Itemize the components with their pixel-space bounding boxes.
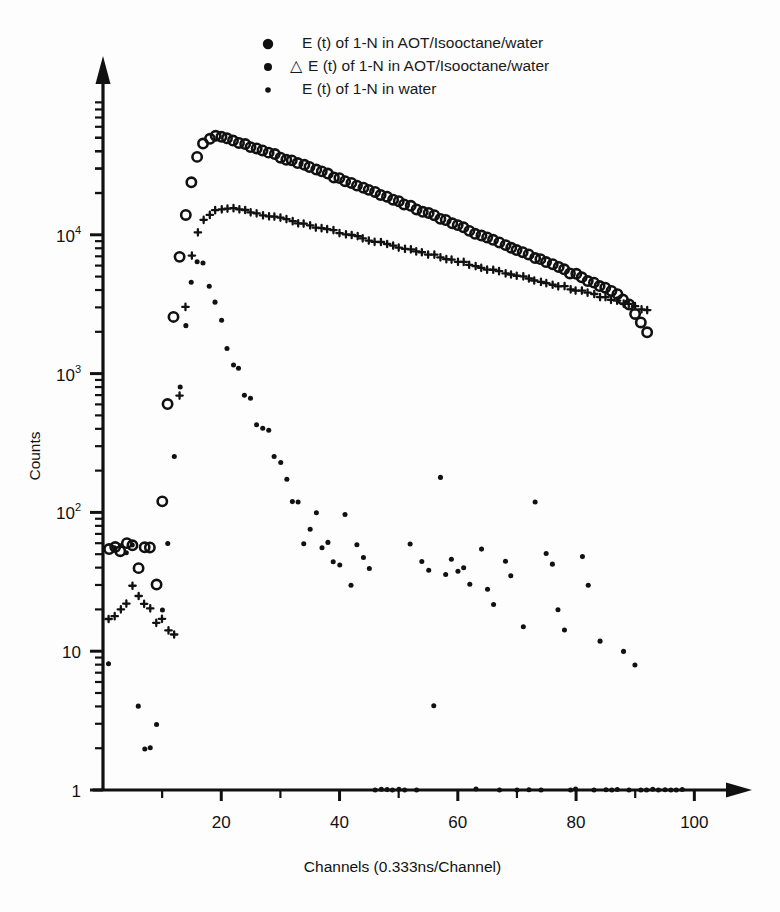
legend-item-1: E (t) of 1-N in AOT/Isooctane/water — [263, 34, 543, 51]
data-point — [112, 545, 117, 550]
figure-container: 11010210310420406080100Channels (0.333ns… — [0, 0, 780, 912]
data-point — [479, 547, 484, 552]
y-tick-label: 10 — [62, 643, 81, 662]
data-point — [550, 562, 555, 567]
plot-background — [0, 0, 780, 912]
data-point — [337, 562, 342, 567]
data-point — [533, 499, 538, 504]
data-point — [195, 259, 200, 264]
legend-marker — [265, 87, 271, 93]
data-point — [539, 787, 544, 792]
data-point — [248, 396, 253, 401]
data-point — [301, 541, 306, 546]
x-tick-label: 80 — [567, 813, 586, 832]
data-point — [212, 300, 217, 305]
data-point — [473, 787, 478, 792]
data-point — [331, 559, 336, 564]
data-point — [189, 280, 194, 285]
data-point — [443, 572, 448, 577]
data-point — [361, 555, 366, 560]
data-point — [343, 512, 348, 517]
data-point — [148, 745, 153, 750]
data-point — [314, 510, 319, 515]
data-point — [348, 583, 353, 588]
data-point — [663, 787, 668, 792]
data-point — [461, 565, 466, 570]
data-point — [367, 566, 372, 571]
data-point — [668, 787, 673, 792]
legend-marker — [264, 63, 272, 71]
y-tick-label: 1 — [72, 782, 81, 801]
legend-label: E (t) of 1-N in water — [302, 80, 436, 97]
data-point — [615, 787, 620, 792]
data-point — [200, 260, 205, 265]
data-point — [603, 787, 608, 792]
x-tick-label: 20 — [212, 813, 231, 832]
data-point — [325, 540, 330, 545]
data-point — [124, 550, 129, 555]
data-point — [580, 554, 585, 559]
data-point — [142, 747, 147, 752]
data-point — [260, 426, 265, 431]
data-point — [426, 568, 431, 573]
data-point — [396, 787, 401, 792]
data-point — [431, 703, 436, 708]
data-point — [650, 787, 655, 792]
data-point — [419, 559, 424, 564]
data-point — [385, 787, 390, 792]
data-point — [242, 393, 247, 398]
data-point — [178, 384, 183, 389]
data-point — [207, 284, 212, 289]
data-point — [521, 624, 526, 629]
data-point — [254, 422, 259, 427]
data-point — [638, 787, 643, 792]
data-point — [236, 366, 241, 371]
data-point — [402, 787, 407, 792]
data-point — [172, 454, 177, 459]
x-tick-label: 40 — [330, 813, 349, 832]
data-point — [598, 639, 603, 644]
data-point — [414, 787, 419, 792]
data-point — [373, 787, 378, 792]
data-point — [674, 787, 679, 792]
legend-marker — [263, 39, 273, 49]
data-point — [438, 475, 443, 480]
data-point — [390, 787, 395, 792]
data-point — [609, 787, 614, 792]
data-point — [467, 582, 472, 587]
data-point — [272, 454, 277, 459]
data-point — [308, 527, 313, 532]
data-point — [568, 787, 573, 792]
x-tick-label: 60 — [448, 813, 467, 832]
legend-label: E (t) of 1-N in AOT/Isooctane/water — [302, 34, 543, 51]
legend-label: E (t) of 1-N in AOT/Isooctane/water — [308, 57, 549, 74]
data-point — [621, 649, 626, 654]
data-point — [278, 460, 283, 465]
data-point — [497, 787, 502, 792]
data-point — [183, 323, 188, 328]
data-point — [154, 722, 159, 727]
data-point — [491, 602, 496, 607]
legend-triangle-icon: △ — [290, 57, 303, 74]
data-point — [449, 557, 454, 562]
data-point — [656, 787, 661, 792]
data-point — [379, 787, 384, 792]
data-point — [562, 627, 567, 632]
data-point — [644, 787, 649, 792]
data-point — [544, 551, 549, 556]
data-point — [408, 542, 413, 547]
data-point — [555, 607, 560, 612]
data-point — [573, 787, 578, 792]
data-point — [106, 661, 111, 666]
data-point — [455, 569, 460, 574]
data-point — [231, 362, 236, 367]
data-point — [165, 541, 170, 546]
data-point — [526, 787, 531, 792]
data-point — [591, 787, 596, 792]
data-point — [130, 543, 135, 548]
data-point — [319, 545, 324, 550]
data-point — [586, 583, 591, 588]
data-point — [514, 787, 519, 792]
data-point — [508, 573, 513, 578]
data-point — [284, 477, 289, 482]
